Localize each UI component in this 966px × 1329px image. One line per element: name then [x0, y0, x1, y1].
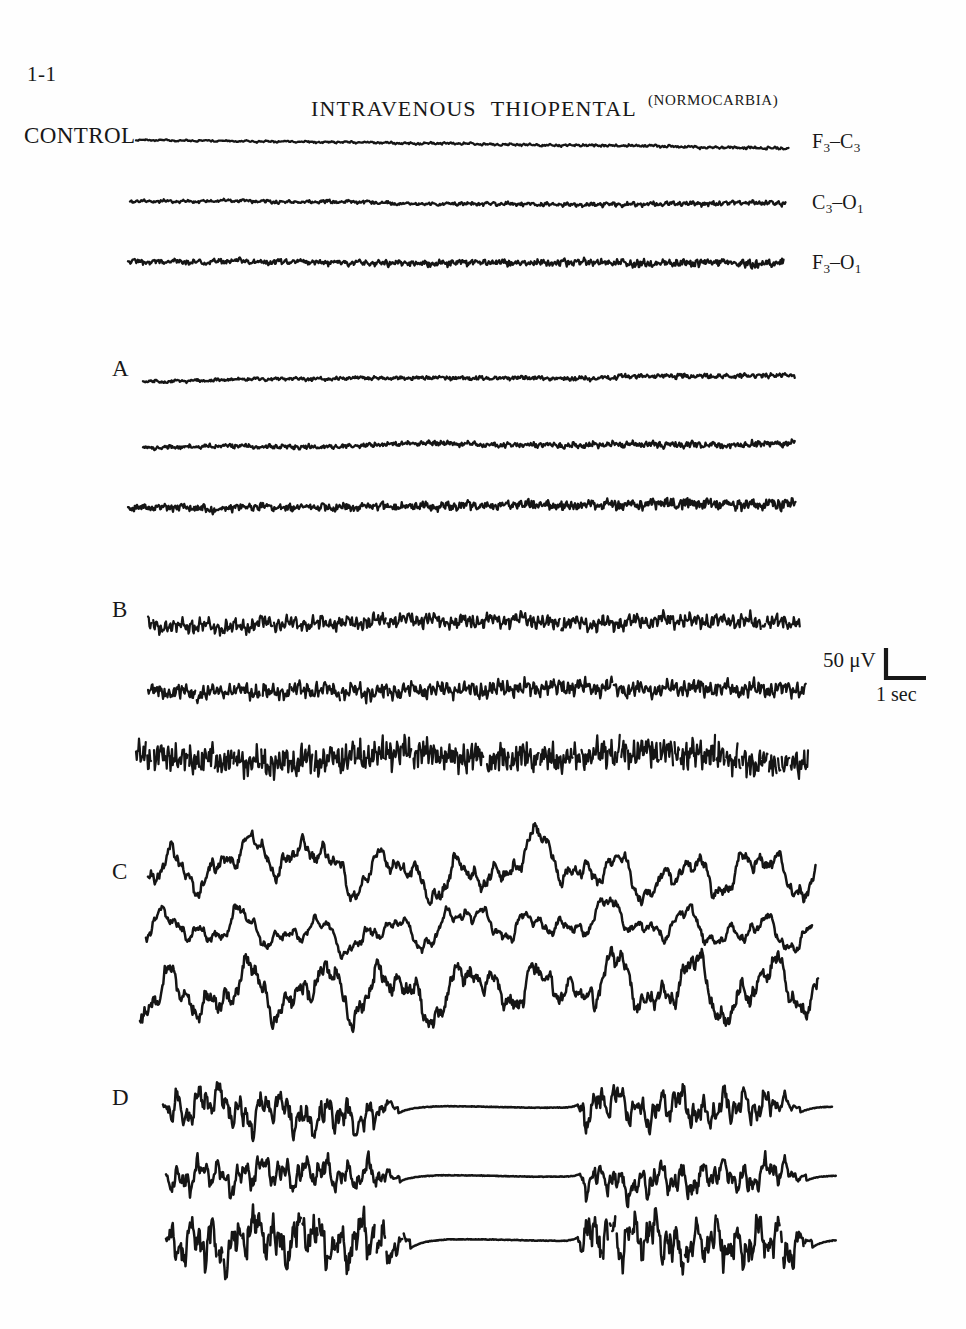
trace-segment	[387, 1238, 403, 1264]
trace-segment	[389, 742, 401, 772]
trace-segment	[270, 1213, 301, 1269]
trace-segment	[805, 1240, 836, 1248]
eeg-trace-d-f3c3	[163, 1082, 832, 1141]
trace-segment	[717, 742, 725, 767]
eeg-trace-b-c3o1	[148, 677, 806, 704]
trace-segment	[215, 750, 232, 772]
eeg-trace-a-f3c3	[143, 373, 795, 383]
trace-segment	[385, 742, 387, 759]
figure-number: 1-1	[27, 64, 57, 85]
trace-segment	[660, 740, 673, 765]
trace-segment	[614, 677, 806, 699]
trace-segment	[357, 735, 383, 768]
trace-segment	[781, 1232, 782, 1242]
trace-segment	[300, 612, 386, 631]
trace-segment	[236, 744, 260, 779]
trace-segment	[603, 1220, 608, 1259]
trace-segment	[717, 1215, 779, 1273]
trace-segment	[128, 498, 796, 514]
trace-segment	[767, 614, 800, 629]
figure-title: INTRAVENOUSTHIOPENTAL	[311, 98, 637, 120]
trace-segment	[261, 744, 312, 780]
trace-segment	[148, 823, 816, 905]
trace-segment	[621, 741, 626, 762]
trace-segment	[291, 680, 340, 700]
trace-segment	[612, 1216, 615, 1231]
trace-segment	[739, 760, 741, 768]
trace-segment	[778, 758, 780, 770]
eeg-trace-group	[128, 139, 836, 1279]
trace-segment	[197, 683, 260, 703]
eeg-trace-c-f3o1	[140, 947, 818, 1032]
trace-segment	[143, 440, 795, 451]
eeg-trace-b-f3c3	[148, 610, 800, 636]
trace-segment	[140, 947, 818, 1032]
trace-segment	[791, 750, 808, 779]
trace-segment	[224, 1224, 241, 1280]
trace-segment	[646, 1208, 684, 1274]
trace-segment	[414, 737, 484, 774]
panel-label-a: A	[112, 357, 129, 380]
trace-segment	[681, 735, 716, 770]
trace-segment	[617, 735, 620, 762]
trace-segment	[377, 1221, 385, 1253]
calibration-marker	[886, 648, 926, 678]
trace-segment	[387, 611, 560, 630]
trace-segment	[487, 743, 509, 772]
eeg-trace-d-c3o1	[166, 1151, 836, 1207]
trace-segment	[402, 735, 411, 757]
trace-segment	[166, 1151, 836, 1207]
eeg-trace-control-f3o1	[128, 257, 784, 268]
trace-segment	[274, 615, 298, 632]
trace-segment	[263, 684, 290, 701]
trace-segment	[390, 677, 613, 701]
trace-segment	[610, 1224, 611, 1226]
trace-segment	[201, 749, 207, 770]
trace-segment	[136, 739, 146, 762]
trace-segment	[582, 735, 608, 770]
trace-segment	[782, 756, 790, 771]
trace-segment	[342, 682, 389, 703]
trace-segment	[404, 1217, 602, 1257]
trace-segment	[540, 742, 572, 774]
trace-segment	[628, 740, 659, 770]
eeg-trace-control-f3c3	[136, 139, 789, 149]
trace-segment	[643, 1241, 645, 1260]
trace-segment	[189, 745, 199, 774]
panel-label-c: C	[112, 860, 128, 883]
trace-segment	[685, 1218, 699, 1262]
eeg-trace-b-f3o1	[136, 735, 808, 780]
trace-segment	[243, 1205, 269, 1260]
calibration-l-icon	[886, 648, 926, 678]
trace-segment	[700, 1216, 716, 1262]
eeg-trace-c-f3c3	[148, 823, 816, 905]
trace-segment	[609, 740, 615, 765]
channel-label-f3-c3: F3–C3	[812, 131, 860, 154]
trace-segment	[510, 742, 539, 772]
trace-segment	[148, 617, 152, 629]
eeg-trace-control-c3o1	[130, 199, 786, 208]
panel-label-d: D	[112, 1086, 129, 1109]
trace-segment	[136, 139, 789, 149]
trace-segment	[148, 684, 195, 699]
trace-segment	[146, 898, 812, 959]
eeg-figure: 1-1 CONTROL INTRAVENOUSTHIOPENTAL (NORMO…	[0, 0, 966, 1329]
figure-subtitle-condition: (NORMOCARBIA)	[648, 93, 778, 108]
channel-label-c3-o1: C3–O1	[812, 192, 864, 215]
trace-segment	[166, 1217, 216, 1272]
eeg-trace-d-f3o1	[166, 1205, 836, 1279]
trace-segment	[234, 753, 235, 764]
trace-segment	[633, 1212, 642, 1261]
trace-segment	[240, 616, 273, 635]
eeg-trace-a-f3o1	[128, 498, 796, 514]
channel-label-f3-o1: F3–O1	[812, 252, 861, 275]
trace-segment	[303, 1215, 318, 1251]
trace-segment	[574, 742, 580, 769]
eeg-trace-c-c3o1	[146, 898, 812, 959]
trace-segment	[617, 1227, 631, 1273]
trace-segment	[153, 620, 174, 635]
trace-segment	[315, 742, 356, 777]
trace-segment	[319, 1219, 336, 1270]
trace-segment	[219, 1247, 223, 1262]
trace-segment	[184, 749, 188, 770]
